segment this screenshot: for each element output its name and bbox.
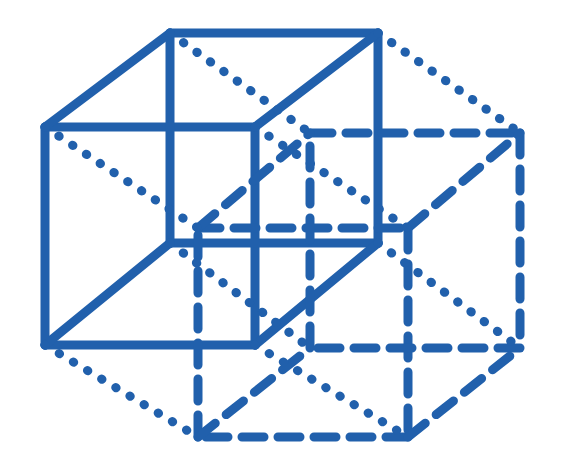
tesseract-figure: [0, 0, 566, 475]
tesseract-diagram: [0, 0, 566, 475]
figure-background: [0, 0, 566, 475]
